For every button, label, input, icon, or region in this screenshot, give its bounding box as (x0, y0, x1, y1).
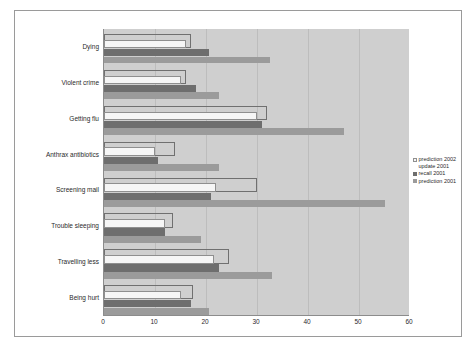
bar-recall-2001 (104, 121, 262, 128)
category-axis-labels: DyingViolent crimeGetting fluAnthrax ant… (15, 29, 99, 316)
x-axis-tick-labels: 0102030405060 (103, 318, 409, 330)
bar-prediction-2001 (104, 128, 344, 135)
bar-recall-2001 (104, 228, 165, 235)
bar-prediction-2001 (104, 164, 219, 171)
x-tick-label: 40 (303, 318, 310, 325)
category-label: Being hurt (15, 294, 99, 301)
bar-prediction-2001 (104, 200, 385, 207)
x-tick-label: 0 (101, 318, 105, 325)
bar-prediction-2002-update-2001 (104, 183, 216, 192)
legend-swatch-icon (413, 172, 417, 176)
plot-area (103, 29, 409, 316)
bar-prediction-2001 (104, 92, 219, 99)
bar-recall-2001 (104, 264, 219, 271)
legend-label: prediction 2001 (419, 178, 457, 185)
chart-figure: DyingViolent crimeGetting fluAnthrax ant… (14, 10, 462, 337)
category-label: Travelling less (15, 258, 99, 265)
chart-legend: prediction 2002 update 2001recall 2001pr… (413, 156, 461, 185)
bar-recall-2001 (104, 157, 158, 164)
category-label: Violent crime (15, 79, 99, 86)
bar-prediction-2002-update-2001 (104, 147, 155, 156)
bar-group (104, 244, 409, 280)
legend-entry: prediction 2001 (413, 178, 461, 185)
bar-prediction-2002-update-2001 (104, 112, 257, 121)
bar-group (104, 137, 409, 173)
category-label: Dying (15, 43, 99, 50)
bar-prediction-2001 (104, 57, 270, 64)
legend-entry: prediction 2002 update 2001 (413, 156, 461, 170)
bar-group (104, 101, 409, 137)
bar-prediction-2001 (104, 272, 272, 279)
bar-prediction-2002-update-2001 (104, 219, 165, 228)
bar-recall-2001 (104, 193, 211, 200)
x-tick-label: 60 (405, 318, 412, 325)
bar-group (104, 173, 409, 209)
bar-group (104, 65, 409, 101)
x-tick-label: 10 (150, 318, 157, 325)
bar-prediction-2002-update-2001 (104, 76, 181, 85)
category-label: Getting flu (15, 115, 99, 122)
bar-group (104, 208, 409, 244)
bar-group (104, 280, 409, 316)
bar-prediction-2001 (104, 308, 209, 315)
bar-prediction-2001 (104, 236, 201, 243)
category-label: Trouble sleeping (15, 222, 99, 229)
legend-label: prediction 2002 update 2001 (419, 156, 462, 170)
bar-group (104, 29, 409, 65)
category-label: Anthrax antibiotics (15, 151, 99, 158)
legend-swatch-icon (413, 179, 417, 183)
bar-prediction-2002-update-2001 (104, 291, 181, 300)
bar-recall-2001 (104, 85, 196, 92)
legend-label: recall 2001 (419, 170, 446, 177)
x-tick-label: 20 (201, 318, 208, 325)
x-tick-label: 30 (252, 318, 259, 325)
category-label: Screening mail (15, 186, 99, 193)
legend-swatch-icon (413, 158, 417, 162)
bar-prediction-2002-update-2001 (104, 40, 186, 49)
bar-recall-2001 (104, 300, 191, 307)
bar-recall-2001 (104, 49, 209, 56)
legend-entry: recall 2001 (413, 170, 461, 177)
bar-prediction-2002-update-2001 (104, 255, 214, 264)
x-tick-label: 50 (354, 318, 361, 325)
